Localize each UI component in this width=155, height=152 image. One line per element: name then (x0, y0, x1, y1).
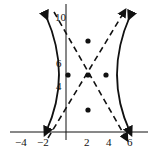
point-center-2-5 (85, 72, 90, 77)
point-2-2 (85, 107, 90, 112)
x-tick-2: 2 (84, 136, 90, 148)
y-tick-6: 6 (56, 57, 62, 69)
vertex-4-5 (103, 72, 108, 77)
hyperbola-diagram: −4 −2 2 4 6 4 6 10 (0, 0, 155, 152)
vertex-0-5 (65, 72, 70, 77)
x-tick-neg2: −2 (37, 136, 49, 148)
point-2-8 (85, 38, 90, 43)
x-tick-neg4: −4 (15, 136, 27, 148)
left-branch (46, 16, 59, 132)
x-tick-6: 6 (127, 136, 133, 148)
y-tick-10: 10 (55, 11, 67, 23)
right-branch (117, 16, 130, 132)
tick-labels: −4 −2 2 4 6 4 6 10 (15, 11, 133, 148)
x-tick-4: 4 (106, 136, 112, 148)
y-tick-4: 4 (56, 80, 62, 92)
